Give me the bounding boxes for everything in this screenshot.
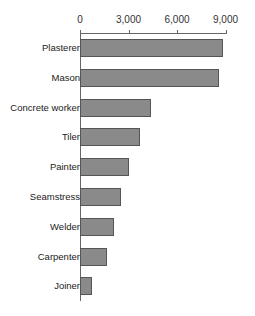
bar [80, 277, 92, 295]
x-tick-label: 6,000 [164, 14, 189, 25]
x-tick-label: 9,000 [213, 14, 238, 25]
category-label: Concrete worker [10, 102, 80, 113]
bar [80, 39, 223, 57]
category-label: Carpenter [38, 251, 80, 262]
category-label: Painter [50, 161, 80, 172]
bar [80, 248, 107, 266]
bar [80, 158, 129, 176]
bar [80, 218, 114, 236]
category-label: Seamstress [30, 191, 80, 202]
x-tick-mark [129, 30, 130, 34]
x-axis-line [80, 33, 227, 34]
category-label: Welder [50, 221, 80, 232]
category-label: Plasterer [42, 42, 80, 53]
x-tick-label: 3,000 [116, 14, 141, 25]
bar [80, 128, 140, 146]
horizontal-bar-chart: 03,0006,0009,000 PlastererMasonConcrete … [0, 0, 255, 316]
bar [80, 99, 151, 117]
category-label: Joiner [54, 280, 80, 291]
category-label: Mason [51, 72, 80, 83]
bar [80, 188, 121, 206]
bar [80, 69, 219, 87]
x-tick-mark [177, 30, 178, 34]
category-label: Tiler [62, 131, 80, 142]
x-tick-mark [80, 30, 81, 34]
x-tick-mark [226, 30, 227, 34]
x-tick-label: 0 [77, 14, 83, 25]
